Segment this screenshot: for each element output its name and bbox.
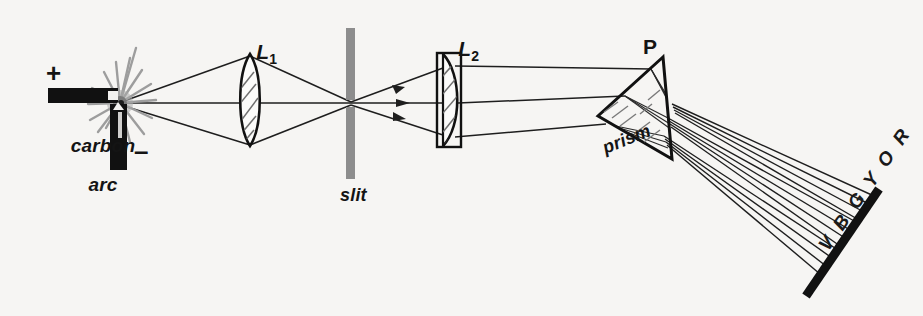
- lens-l1-label: L1: [232, 20, 277, 88]
- lens-l2-label: L2: [434, 17, 479, 85]
- carbon-arc-label-line1: carbon: [71, 135, 136, 156]
- optics-diagram-figure: + – carbon arc L1 L2 slit P prism V B G …: [0, 0, 923, 316]
- slit-label: slit: [340, 186, 367, 204]
- arrowhead-lower: [393, 112, 406, 121]
- ray-axis: [458, 96, 625, 103]
- lens-l1-label-text: L: [256, 40, 269, 63]
- ray-lower: [250, 105, 351, 145]
- ray-upper: [351, 68, 443, 102]
- rays-lens2-to-prism: [455, 66, 651, 137]
- carbon-arc-label-line2: arc: [88, 174, 117, 195]
- ray-upper: [455, 66, 651, 69]
- arrowhead-upper: [392, 85, 405, 94]
- prism-letter-label: P: [643, 36, 657, 57]
- lens-l1-label-subscript: 1: [269, 52, 277, 68]
- positive-terminal-label: +: [46, 60, 61, 87]
- ray-lower: [455, 124, 606, 137]
- positive-electrode: [48, 88, 118, 103]
- lens-l2-label-text: L: [458, 37, 471, 60]
- lens-l2-label-subscript: 2: [471, 49, 479, 65]
- carbon-arc-label: carbon arc: [44, 117, 140, 214]
- arrowhead-axis: [396, 99, 410, 107]
